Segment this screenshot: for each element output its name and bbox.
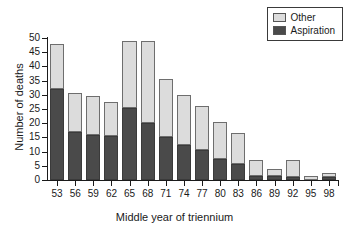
y-axis-tick <box>42 38 47 39</box>
chart-legend: Other Aspiration <box>267 7 343 41</box>
x-axis-title: Middle year of triennium <box>0 211 349 223</box>
y-axis-tick <box>42 109 47 110</box>
y-axis-tick <box>42 52 47 53</box>
legend-label-other: Other <box>291 13 316 23</box>
x-axis-tick <box>220 181 221 186</box>
bar-segment-other <box>177 95 191 145</box>
x-axis-tick <box>329 181 330 186</box>
bar-segment-other <box>304 176 318 180</box>
y-axis-tick <box>42 166 47 167</box>
bar-segment-aspiration <box>122 108 136 180</box>
bar-92 <box>286 160 300 180</box>
bar-segment-aspiration <box>141 123 155 180</box>
bar-65 <box>122 41 136 180</box>
y-axis-tick <box>42 95 47 96</box>
x-axis-tick <box>111 181 112 186</box>
y-axis-tick <box>42 137 47 138</box>
x-axis-line <box>47 180 339 181</box>
x-axis-tick <box>202 181 203 186</box>
y-axis-tick <box>42 81 47 82</box>
bar-segment-aspiration <box>86 135 100 180</box>
plot-area <box>48 38 338 180</box>
bar-68 <box>141 41 155 180</box>
bar-80 <box>213 122 227 180</box>
bar-segment-other <box>267 169 281 176</box>
bar-segment-aspiration <box>286 177 300 180</box>
x-axis-tick <box>57 181 58 186</box>
bar-77 <box>195 106 209 180</box>
y-axis-tick <box>42 180 47 181</box>
bar-53 <box>50 44 64 180</box>
bar-segment-other <box>231 133 245 164</box>
y-axis-title: Number of deaths <box>13 32 25 182</box>
bar-segment-other <box>213 122 227 159</box>
bar-segment-other <box>159 79 173 137</box>
bar-segment-aspiration <box>177 145 191 181</box>
legend-entry-other: Other <box>273 11 335 24</box>
x-axis-tick <box>148 181 149 186</box>
bar-segment-aspiration <box>104 136 118 180</box>
y-axis-tick <box>42 66 47 67</box>
y-axis-tick <box>42 123 47 124</box>
x-axis-tick <box>238 181 239 186</box>
bar-95 <box>304 176 318 180</box>
x-axis-tick <box>311 181 312 186</box>
bar-segment-aspiration <box>159 137 173 180</box>
x-axis-tick <box>293 181 294 186</box>
x-axis-tick <box>130 181 131 186</box>
bar-59 <box>86 96 100 180</box>
bar-segment-other <box>122 41 136 108</box>
bar-segment-aspiration <box>50 89 64 180</box>
legend-entry-aspiration: Aspiration <box>273 24 335 37</box>
bar-segment-aspiration <box>249 176 263 180</box>
bar-segment-other <box>86 96 100 134</box>
bar-segment-other <box>68 93 82 131</box>
x-axis-tick <box>275 181 276 186</box>
bar-segment-aspiration <box>267 176 281 180</box>
bar-segment-other <box>141 41 155 123</box>
bar-segment-aspiration <box>213 159 227 180</box>
bar-98 <box>322 173 336 180</box>
chart-container: Other Aspiration 05101520253035404550 53… <box>0 0 349 238</box>
x-axis-tick <box>184 181 185 186</box>
bar-segment-aspiration <box>195 150 209 180</box>
x-axis-tick <box>338 181 339 186</box>
bar-segment-other <box>104 102 118 136</box>
bar-83 <box>231 133 245 180</box>
x-axis-tick <box>166 181 167 186</box>
bar-62 <box>104 102 118 180</box>
legend-swatch-aspiration-icon <box>273 26 286 35</box>
bar-segment-aspiration <box>322 177 336 180</box>
legend-swatch-other-icon <box>273 13 286 22</box>
legend-label-aspiration: Aspiration <box>291 26 335 36</box>
bar-86 <box>249 160 263 180</box>
bar-segment-aspiration <box>68 132 82 180</box>
x-axis-tick-label: 98 <box>318 188 340 199</box>
x-axis-tick <box>256 181 257 186</box>
bar-segment-other <box>50 44 64 89</box>
x-axis-tick <box>93 181 94 186</box>
bar-56 <box>68 93 82 180</box>
y-axis-tick <box>42 152 47 153</box>
bar-74 <box>177 95 191 180</box>
bar-segment-other <box>286 160 300 177</box>
bar-71 <box>159 79 173 180</box>
x-axis-tick <box>75 181 76 186</box>
bar-segment-aspiration <box>231 164 245 180</box>
bar-segment-other <box>195 106 209 150</box>
bar-89 <box>267 169 281 180</box>
bar-segment-other <box>249 160 263 176</box>
